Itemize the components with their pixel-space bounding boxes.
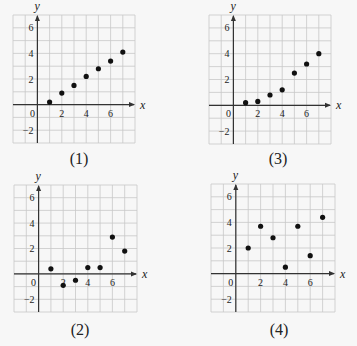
data-point	[47, 99, 52, 104]
y-tick-label: 6	[30, 192, 35, 203]
data-point	[246, 245, 251, 250]
data-point	[48, 266, 53, 271]
y-axis-label: y	[232, 168, 239, 182]
x-tick-label: 6	[308, 277, 313, 288]
figure-canvas: xy0246642−2(1)xy0246642−2(3)xy0246642−2(…	[0, 0, 357, 346]
y-tick-label: 4	[30, 218, 35, 229]
y-tick-label: 6	[227, 191, 232, 202]
data-point	[122, 248, 127, 253]
y-axis-label: y	[35, 169, 42, 183]
data-point	[316, 51, 321, 56]
x-tick-label: 0	[31, 277, 36, 288]
data-point	[120, 50, 125, 55]
panel-caption: (1)	[70, 150, 89, 168]
data-point	[110, 234, 115, 239]
x-axis-label: x	[339, 267, 346, 281]
y-tick-label: 4	[28, 48, 33, 59]
x-tick-label: 2	[255, 108, 260, 119]
x-arrow-icon	[325, 103, 331, 108]
y-tick-label: 4	[227, 217, 232, 228]
x-tick-label: 4	[280, 108, 285, 119]
panel-caption: (3)	[269, 150, 288, 168]
x-arrow-icon	[129, 102, 135, 107]
x-tick-label: 2	[258, 277, 263, 288]
data-point	[270, 235, 275, 240]
x-tick-label: 4	[85, 277, 90, 288]
x-tick-label: 4	[283, 277, 288, 288]
scatter-panel-1: xy0246642−2(1)	[13, 0, 146, 168]
x-tick-label: 6	[108, 108, 113, 119]
x-axis-label: x	[139, 98, 146, 112]
data-point	[255, 99, 260, 104]
y-tick-label: −2	[23, 125, 34, 136]
data-point	[292, 70, 297, 75]
data-point	[98, 265, 103, 270]
x-tick-label: 0	[226, 108, 231, 119]
y-tick-label: 4	[224, 48, 229, 59]
data-point	[295, 224, 300, 229]
x-tick-label: 6	[304, 108, 309, 119]
data-point	[267, 92, 272, 97]
y-tick-label: −2	[24, 294, 35, 305]
data-point	[84, 74, 89, 79]
scatter-panel-3: xy0246642−2(2)	[14, 169, 148, 339]
y-tick-label: 2	[30, 243, 35, 254]
data-point	[59, 90, 64, 95]
y-tick-label: −2	[219, 126, 230, 137]
scatter-plot-figure: xy0246642−2(1)xy0246642−2(3)xy0246642−2(…	[0, 0, 357, 346]
y-arrow-icon	[231, 15, 236, 21]
y-tick-label: 6	[224, 22, 229, 33]
y-axis-label: y	[33, 0, 40, 13]
y-tick-label: 2	[28, 74, 33, 85]
data-point	[71, 83, 76, 88]
y-axis-label: y	[229, 0, 236, 13]
panel-caption: (2)	[71, 321, 90, 339]
data-point	[280, 87, 285, 92]
x-tick-label: 4	[84, 108, 89, 119]
y-arrow-icon	[233, 184, 238, 190]
x-arrow-icon	[131, 271, 137, 276]
x-tick-label: 6	[110, 277, 115, 288]
data-point	[108, 58, 113, 63]
x-tick-label: 0	[30, 108, 35, 119]
data-point	[73, 278, 78, 283]
y-tick-label: −2	[221, 294, 232, 305]
x-arrow-icon	[329, 271, 335, 276]
panel-caption: (4)	[270, 321, 289, 339]
data-point	[96, 66, 101, 71]
x-tick-label: 0	[228, 277, 233, 288]
data-point	[85, 265, 90, 270]
y-tick-label: 6	[28, 22, 33, 33]
x-axis-label: x	[141, 267, 148, 281]
x-axis-label: x	[335, 98, 342, 112]
scatter-panel-4: xy0246642−2(4)	[211, 168, 346, 339]
y-tick-label: 2	[224, 74, 229, 85]
data-point	[258, 224, 263, 229]
data-point	[304, 61, 309, 66]
y-arrow-icon	[35, 15, 40, 21]
data-point	[243, 100, 248, 105]
y-tick-label: 2	[227, 243, 232, 254]
x-tick-label: 2	[59, 108, 64, 119]
y-arrow-icon	[36, 185, 41, 191]
data-point	[308, 253, 313, 258]
scatter-panel-2: xy0246642−2(3)	[209, 0, 342, 168]
data-point	[61, 283, 66, 288]
data-point	[283, 265, 288, 270]
data-point	[320, 215, 325, 220]
